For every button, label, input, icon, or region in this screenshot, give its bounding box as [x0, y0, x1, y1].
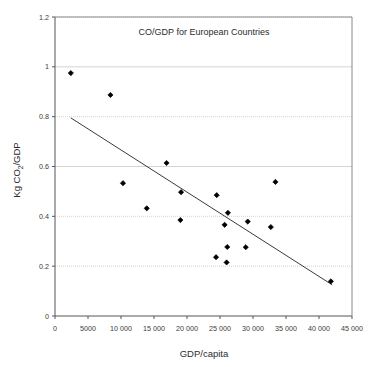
chart-background [0, 0, 372, 367]
chart-container: 00.20.40.60.811.2 0500010 00015 00020 00… [0, 0, 372, 367]
x-tick-label: 25 000 [209, 324, 231, 333]
y-tick-label: 0.6 [39, 162, 49, 171]
x-tick-label: 45 000 [341, 324, 363, 333]
x-tick-label: 20 000 [176, 324, 198, 333]
y-tick-label: 0.8 [39, 112, 49, 121]
x-tick-label: 40 000 [308, 324, 330, 333]
chart-title: CO/GDP for European Countries [139, 27, 270, 37]
x-tick-label: 15 000 [143, 324, 165, 333]
y-tick-label: 0.2 [39, 262, 49, 271]
x-tick-label: 35 000 [275, 324, 297, 333]
y-axis-title-post: /GDP [11, 142, 22, 165]
y-tick-label: 0.4 [39, 212, 49, 221]
y-tick-label: 0 [45, 312, 49, 321]
x-tick-label: 5000 [80, 324, 96, 333]
x-tick-label: 30 000 [242, 324, 264, 333]
y-axis-title-pre: Kg CO [11, 169, 22, 198]
y-tick-label: 1 [45, 62, 49, 71]
x-tick-label: 10 000 [110, 324, 132, 333]
y-axis-title-group: Kg CO2/GDP [11, 142, 24, 197]
x-axis-title: GDP/capita [180, 348, 229, 359]
scatter-plot: 00.20.40.60.811.2 0500010 00015 00020 00… [0, 0, 372, 367]
y-tick-label: 1.2 [39, 13, 49, 22]
x-tick-label: 0 [53, 324, 57, 333]
y-axis-title: Kg CO2/GDP [11, 142, 24, 197]
